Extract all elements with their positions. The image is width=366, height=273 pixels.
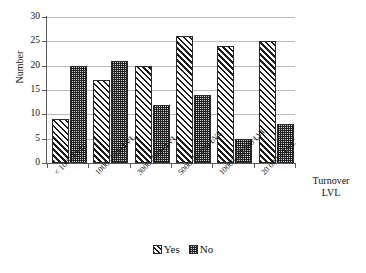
- x-axis-title: Turnover LVL: [299, 175, 363, 199]
- x-axis-tick: [88, 163, 89, 168]
- y-axis-tick-label: 10: [18, 109, 40, 119]
- checkerboard-swatch: [189, 245, 198, 254]
- bar-group: [47, 17, 88, 163]
- bar-yes: [217, 46, 234, 163]
- x-axis-tick: [212, 163, 213, 168]
- bar-yes: [259, 41, 276, 163]
- x-axis-tick: [130, 163, 131, 168]
- x-axis-title-line-1: Turnover: [299, 175, 363, 187]
- x-axis-tick: [47, 163, 48, 168]
- legend-item: No: [189, 243, 213, 255]
- legend-item: Yes: [153, 243, 180, 255]
- diagonal-hatch-swatch: [153, 245, 162, 254]
- bar-yes: [135, 66, 152, 163]
- legend-label: Yes: [164, 243, 180, 255]
- x-axis-tick: [295, 163, 296, 168]
- chart-legend: YesNo: [0, 243, 366, 255]
- y-axis-tick-label: 30: [18, 12, 40, 22]
- x-axis-tick: [171, 163, 172, 168]
- y-axis-tick-label: 5: [18, 134, 40, 144]
- y-axis-tick-label: 0: [18, 158, 40, 168]
- y-axis-tick-label: 15: [18, 85, 40, 95]
- legend-label: No: [200, 243, 213, 255]
- bar-chart: Number 051015202530 < 1000 LVL1000–3000 …: [0, 0, 366, 273]
- y-axis-tick-label: 25: [18, 36, 40, 46]
- bar-yes: [176, 36, 193, 163]
- x-axis-title-line-2: LVL: [299, 187, 363, 199]
- bar-yes: [93, 80, 110, 163]
- x-axis-tick: [254, 163, 255, 168]
- y-axis-tick-label: 20: [18, 61, 40, 71]
